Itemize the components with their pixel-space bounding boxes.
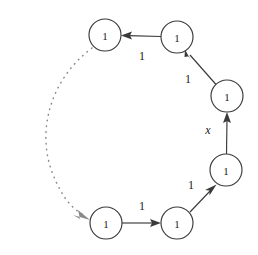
edge-label-n3-n2: 1	[185, 72, 191, 86]
node-n1[interactable]: 1	[89, 19, 121, 51]
edge-label-n5-n4: 1	[188, 178, 194, 192]
node-n4[interactable]: 1	[210, 154, 242, 186]
edge-label-n6-n5: 1	[139, 199, 145, 213]
node-n4-label: 1	[223, 165, 229, 177]
node-n6-label: 1	[103, 218, 109, 230]
edge-label-n2-n1: 1	[139, 49, 145, 63]
dotted-arc-path	[46, 48, 92, 214]
node-n5-label: 1	[174, 218, 180, 230]
edge-n2-to-n1-line	[128, 36, 161, 37]
edge-n6-to-n5	[122, 219, 161, 227]
edge-n3-to-n2-line	[190, 55, 216, 85]
edge-n2-to-n1	[121, 31, 161, 39]
node-n2-label: 1	[174, 32, 180, 44]
node-n2[interactable]: 1	[161, 21, 193, 53]
graph-figure: 1 1 x 1 1 1 1	[0, 0, 258, 255]
node-n5[interactable]: 1	[161, 207, 193, 239]
dotted-arc-arrowhead	[73, 210, 90, 220]
node-n6[interactable]: 1	[90, 207, 122, 239]
node-n3-label: 1	[224, 91, 230, 103]
edge-n1-to-n6-dotted	[46, 48, 92, 220]
node-n1-label: 1	[102, 30, 108, 42]
edge-n4-to-n3	[223, 112, 231, 154]
node-n3[interactable]: 1	[211, 80, 243, 112]
edge-n4-to-n3-line	[227, 119, 228, 154]
edge-label-n4-n3: x	[204, 123, 211, 137]
graph-canvas: 1 1 x 1 1 1 1	[0, 0, 258, 255]
edge-n5-to-n4-line	[190, 190, 211, 212]
